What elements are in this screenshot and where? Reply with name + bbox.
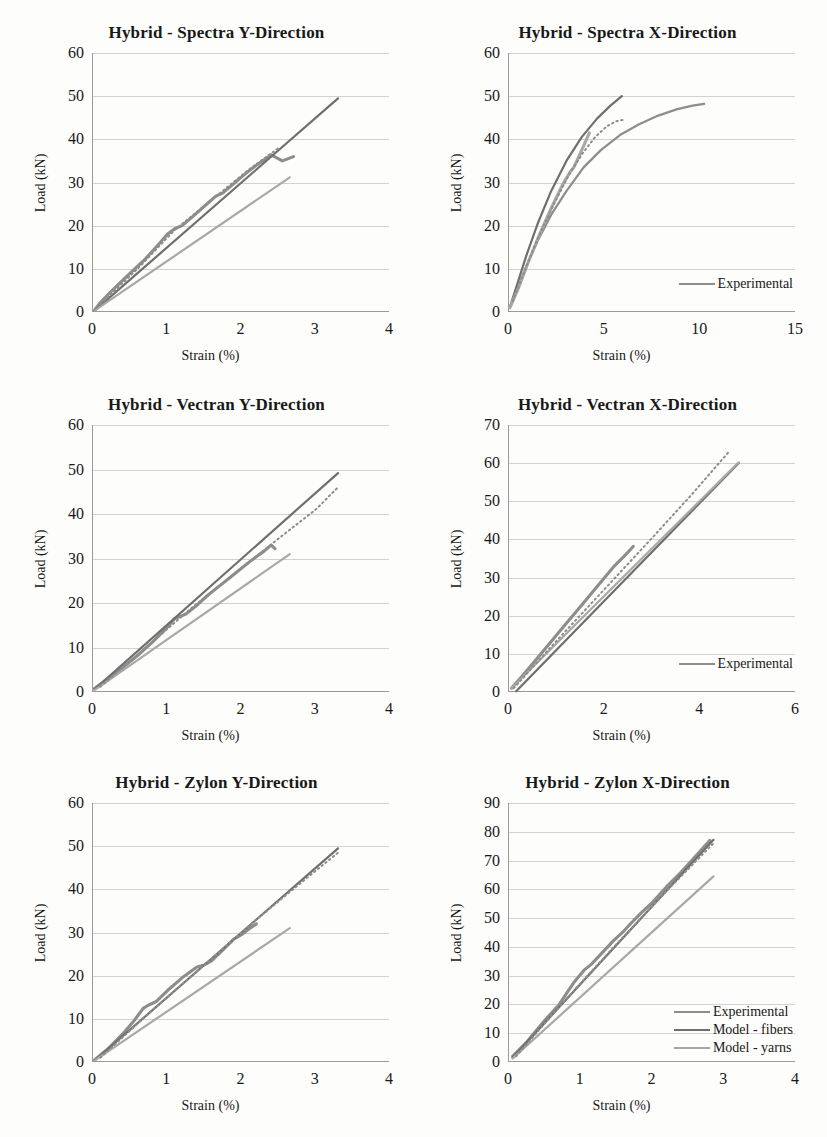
chart-panel-1: Hybrid - Spectra X-DirectionLoad (kN)010…: [424, 22, 819, 382]
x-tick-label: 2: [648, 1070, 656, 1088]
y-axis-ticks: 0102030405060: [8, 43, 84, 378]
chart-body: Load (kN)0102030405060Experimental051015…: [424, 43, 819, 378]
series-line: [94, 473, 338, 689]
legend-label: Experimental: [718, 275, 793, 292]
y-tick-label: 40: [484, 130, 500, 148]
y-tick-label: 20: [68, 216, 84, 234]
chart-legend: ExperimentalModel - fibersModel - yarns: [674, 1003, 793, 1057]
x-tick-label: 10: [691, 320, 707, 338]
x-axis-ticks: 01234: [92, 320, 389, 342]
series-line: [510, 133, 589, 308]
y-tick-label: 60: [68, 794, 84, 812]
series-layer: [509, 53, 796, 312]
chart-title: Hybrid - Spectra Y-Direction: [34, 22, 399, 43]
legend-label: Experimental: [718, 655, 793, 672]
chart-title: Hybrid - Vectran Y-Direction: [34, 394, 399, 415]
legend-item[interactable]: Model - yarns: [674, 1039, 793, 1056]
y-tick-label: 30: [484, 173, 500, 191]
y-tick-label: 0: [492, 683, 500, 701]
y-tick-label: 10: [484, 1024, 500, 1042]
chart-legend: Experimental: [679, 275, 793, 293]
chart-panel-3: Hybrid - Vectran X-DirectionLoad (kN)010…: [424, 394, 819, 762]
x-tick-label: 0: [88, 1070, 96, 1088]
x-tick-label: 3: [719, 1070, 727, 1088]
chart-title: Hybrid - Zylon Y-Direction: [34, 772, 399, 793]
series-line: [94, 98, 338, 310]
x-tick-label: 0: [504, 700, 512, 718]
chart-body: Load (kN)010203040506001234Strain (%): [8, 43, 413, 378]
chart-body: Load (kN)010203040506001234Strain (%): [8, 793, 413, 1128]
plot-area: [92, 425, 389, 692]
y-tick-label: 0: [76, 303, 84, 321]
y-axis-ticks: 0102030405060: [8, 415, 84, 758]
y-tick-label: 60: [68, 44, 84, 62]
chart-title: Hybrid - Vectran X-Direction: [450, 394, 805, 415]
y-tick-label: 10: [484, 644, 500, 662]
legend-swatch-icon: [674, 1011, 710, 1013]
legend-label: Experimental: [713, 1003, 788, 1020]
y-tick-label: 20: [68, 594, 84, 612]
x-tick-label: 1: [576, 1070, 584, 1088]
chart-body: Load (kN)0102030405060708090Experimental…: [424, 793, 819, 1128]
y-tick-label: 40: [68, 130, 84, 148]
y-tick-label: 30: [68, 923, 84, 941]
x-tick-label: 4: [695, 700, 703, 718]
x-axis-ticks: 0246: [508, 700, 795, 722]
y-tick-label: 40: [484, 938, 500, 956]
series-layer: [93, 425, 390, 692]
y-tick-label: 10: [68, 1009, 84, 1027]
y-tick-label: 0: [76, 1053, 84, 1071]
legend-swatch-icon: [679, 663, 715, 665]
x-tick-label: 6: [791, 700, 799, 718]
x-tick-label: 5: [600, 320, 608, 338]
x-tick-label: 4: [385, 700, 393, 718]
y-tick-label: 0: [76, 683, 84, 701]
series-line: [510, 104, 704, 307]
plot-area: [92, 803, 389, 1062]
x-tick-label: 3: [311, 700, 319, 718]
y-tick-label: 50: [68, 87, 84, 105]
x-tick-label: 0: [88, 320, 96, 338]
plot-area: Experimental: [508, 53, 795, 312]
y-axis-ticks: 0102030405060: [424, 43, 500, 378]
legend-item[interactable]: Model - fibers: [674, 1021, 793, 1038]
x-tick-label: 15: [787, 320, 803, 338]
legend-item[interactable]: Experimental: [679, 275, 793, 292]
legend-item[interactable]: Experimental: [674, 1003, 793, 1020]
x-tick-label: 0: [88, 700, 96, 718]
x-axis-ticks: 01234: [92, 1070, 389, 1092]
x-tick-label: 2: [237, 700, 245, 718]
series-layer: [93, 53, 390, 312]
y-tick-label: 40: [68, 880, 84, 898]
y-tick-label: 40: [68, 505, 84, 523]
x-tick-label: 4: [791, 1070, 799, 1088]
legend-label: Model - fibers: [713, 1021, 793, 1038]
y-axis-ticks: 010203040506070: [424, 415, 500, 758]
y-tick-label: 10: [68, 259, 84, 277]
legend-label: Model - yarns: [713, 1039, 792, 1056]
chart-body: Load (kN)010203040506070Experimental0246…: [424, 415, 819, 758]
y-tick-label: 50: [68, 460, 84, 478]
x-axis-label: Strain (%): [8, 728, 413, 744]
x-tick-label: 2: [237, 320, 245, 338]
x-axis-ticks: 01234: [508, 1070, 795, 1092]
series-layer: [509, 425, 796, 692]
y-tick-label: 60: [484, 44, 500, 62]
legend-swatch-icon: [679, 283, 715, 285]
series-line: [94, 928, 289, 1061]
legend-item[interactable]: Experimental: [679, 655, 793, 672]
y-axis-ticks: 0102030405060: [8, 793, 84, 1128]
plot-area: ExperimentalModel - fibersModel - yarns: [508, 803, 795, 1062]
x-axis-label: Strain (%): [8, 1098, 413, 1114]
x-tick-label: 1: [162, 700, 170, 718]
plot-area: [92, 53, 389, 312]
x-axis-ticks: 01234: [92, 700, 389, 722]
y-axis-ticks: 0102030405060708090: [424, 793, 500, 1128]
y-tick-label: 80: [484, 822, 500, 840]
y-tick-label: 50: [484, 909, 500, 927]
y-tick-label: 0: [492, 1053, 500, 1071]
y-tick-label: 20: [484, 216, 500, 234]
x-tick-label: 4: [385, 1070, 393, 1088]
legend-swatch-icon: [674, 1047, 710, 1049]
x-tick-label: 0: [504, 320, 512, 338]
